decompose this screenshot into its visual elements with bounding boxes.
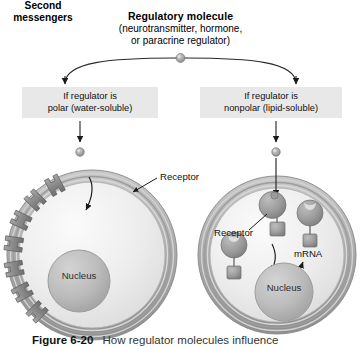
figure-caption-number: Figure 6-20 (32, 334, 93, 346)
branch-stems (80, 121, 276, 142)
regulatory-molecule-icon (176, 54, 185, 63)
right-nucleus-label: Nucleus (253, 282, 315, 293)
figure-caption: Figure 6-20 How regulator molecules infl… (32, 334, 332, 347)
right-cell (198, 148, 356, 334)
left-cell (4, 148, 177, 340)
figure-canvas: Regulatory molecule (neurotransmitter, h… (0, 0, 361, 347)
figure-caption-text: How regulator molecules influence (103, 334, 279, 346)
right-ligand-icon (272, 148, 280, 156)
mrna-label: mRNA (294, 248, 322, 259)
left-receptor-label: Receptor (160, 171, 199, 182)
right-receptor-label: Receptor (214, 227, 253, 238)
left-nucleus (48, 250, 110, 312)
left-ligand-icon (76, 148, 84, 156)
left-nucleus-label: Nucleus (48, 270, 110, 281)
